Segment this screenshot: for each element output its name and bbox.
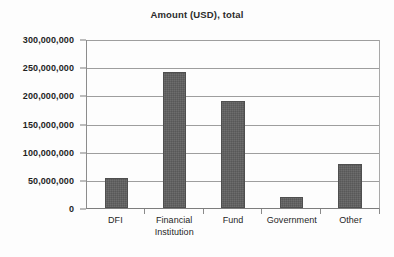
x-axis-category-label-line: Government — [262, 215, 321, 227]
x-axis-category-label-line: Financial — [145, 215, 204, 227]
bar[interactable] — [280, 197, 303, 208]
bar-slot — [87, 40, 145, 208]
plot-area — [86, 40, 380, 209]
bar[interactable] — [338, 164, 361, 208]
bar-slot — [145, 40, 203, 208]
x-axis-category-label-line: Other — [321, 215, 380, 227]
bar-chart-figure: Amount (USD), total 050,000,000100,000,0… — [0, 0, 394, 257]
bars-series — [87, 40, 379, 208]
x-axis-category-label-line: Institution — [145, 227, 204, 239]
y-axis-tick-marks — [0, 40, 86, 209]
x-axis-category-label-line: Fund — [204, 215, 263, 227]
x-axis-category-label: DFI — [86, 215, 145, 238]
bar[interactable] — [163, 72, 186, 208]
bar[interactable] — [105, 178, 128, 208]
x-axis-category-label: Government — [262, 215, 321, 238]
chart-title: Amount (USD), total — [0, 9, 394, 20]
x-axis-category-label-line: DFI — [86, 215, 145, 227]
x-axis-category-label: Fund — [204, 215, 263, 238]
bar-slot — [204, 40, 262, 208]
x-axis-category-labels: DFIFinancialInstitutionFundGovernmentOth… — [86, 215, 380, 238]
bar[interactable] — [221, 101, 244, 208]
x-axis-tick — [379, 209, 380, 214]
bar-slot — [262, 40, 320, 208]
x-axis-category-label: FinancialInstitution — [145, 215, 204, 238]
bar-slot — [321, 40, 379, 208]
x-axis-category-label: Other — [321, 215, 380, 238]
